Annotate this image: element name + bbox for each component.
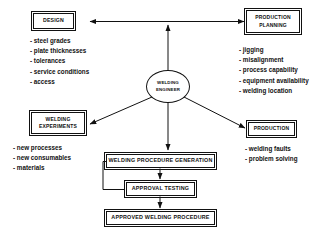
node-welding-engineer[interactable]: WELDING ENGINEER [146, 70, 190, 103]
bullets-production: - welding faults - problem solving [245, 144, 297, 164]
bullets-welding-experiments: - new processes - new consumables - mate… [13, 143, 71, 174]
node-production[interactable]: PRODUCTION [248, 122, 295, 136]
bullets-design: - steel grades - plate thicknesses - tol… [30, 36, 89, 87]
welding-engineer-diagram: DESIGN PRODUCTION PLANNING WELDING EXPER… [0, 0, 334, 241]
line-to-welding-experiments [90, 97, 152, 124]
node-approved-welding-procedure[interactable]: APPROVED WELDING PROCEDURE [106, 211, 215, 225]
node-design[interactable]: DESIGN [33, 13, 74, 29]
node-approval-testing[interactable]: APPROVAL TESTING [126, 182, 195, 196]
node-welding-procedure-generation[interactable]: WELDING PROCEDURE GENERATION [106, 154, 215, 168]
bullets-production-planning: - jigging - misalignment - process capab… [239, 45, 309, 96]
node-production-planning[interactable]: PRODUCTION PLANNING [246, 10, 300, 33]
node-welding-experiments[interactable]: WELDING EXPERIMENTS [31, 112, 85, 134]
line-to-production [184, 97, 245, 128]
